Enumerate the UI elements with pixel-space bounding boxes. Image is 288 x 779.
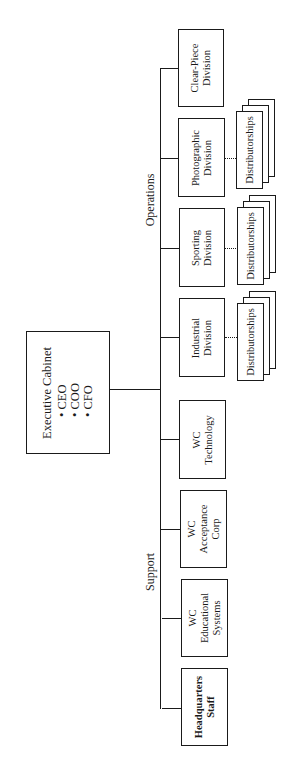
unit-label-line1: WC bbox=[191, 415, 203, 464]
executive-member-list: • CEO • COO • CFO bbox=[56, 347, 95, 439]
unit-label-line1: Headquarters bbox=[193, 676, 205, 738]
group-label-operations: Operations bbox=[143, 174, 158, 227]
unit-label: Clear-Piece Division bbox=[189, 44, 213, 93]
distributorships-label: Distributorships bbox=[245, 212, 257, 280]
distributorships-front-card[interactable]: Distributorships bbox=[237, 303, 264, 381]
executive-cabinet-box[interactable]: Executive Cabinet • CEO • COO • CFO bbox=[26, 331, 110, 454]
exec-connector-line bbox=[109, 389, 161, 390]
unit-label-line3: Corp bbox=[209, 505, 221, 554]
dotted-link-industrial-distributorships bbox=[225, 337, 237, 338]
distributorships-label: Distributorships bbox=[245, 308, 257, 376]
unit-label-line2: Acceptance bbox=[198, 505, 210, 554]
unit-label-line1: WC bbox=[187, 593, 199, 643]
branch-line-headquarters-staff bbox=[162, 708, 182, 709]
unit-box-clear-piece-division[interactable]: Clear-Piece Division bbox=[178, 29, 224, 107]
unit-label: Sporting Division bbox=[190, 229, 214, 265]
unit-label: Industrial Division bbox=[190, 317, 214, 357]
member-cfo: • CFO bbox=[83, 347, 96, 439]
unit-label-line1: Sporting bbox=[190, 229, 202, 265]
dotted-link-sporting-distributorships bbox=[225, 248, 236, 249]
executive-cabinet-content: Executive Cabinet • CEO • COO • CFO bbox=[40, 347, 95, 439]
unit-label: Headquarters Staff bbox=[193, 676, 217, 738]
unit-label-line2: Division bbox=[202, 229, 214, 265]
branch-line-photographic bbox=[160, 158, 179, 159]
unit-label-line3: Systems bbox=[210, 593, 222, 643]
unit-box-wc-educational-systems[interactable]: WC Educational Systems bbox=[181, 579, 228, 657]
unit-label-line1: Industrial bbox=[190, 317, 202, 357]
branch-line-wc-acceptance-corp bbox=[161, 529, 180, 530]
branch-line-wc-educational-systems bbox=[162, 618, 181, 619]
branch-line-industrial bbox=[160, 337, 179, 338]
branch-line-sporting bbox=[160, 248, 179, 249]
unit-label: Photographic Division bbox=[190, 130, 214, 186]
branch-line-clear-piece bbox=[160, 68, 179, 69]
unit-label-line2: Division bbox=[202, 317, 214, 357]
dotted-link-photographic-distributorships bbox=[225, 158, 236, 159]
unit-box-wc-acceptance-corp[interactable]: WC Acceptance Corp bbox=[180, 490, 227, 568]
unit-label-line2: Technology bbox=[203, 415, 215, 464]
unit-label-line1: Clear-Piece bbox=[189, 44, 201, 93]
distributorships-front-card[interactable]: Distributorships bbox=[237, 207, 264, 285]
unit-label-line1: WC bbox=[186, 505, 198, 554]
unit-label-line2: Division bbox=[202, 130, 214, 186]
unit-label-line2: Educational bbox=[199, 593, 211, 643]
unit-label: WC Technology bbox=[191, 415, 215, 464]
distributorships-front-card[interactable]: Distributorships bbox=[236, 111, 263, 189]
unit-label-line2: Staff bbox=[205, 676, 217, 738]
executive-cabinet-title: Executive Cabinet bbox=[40, 347, 54, 439]
unit-box-sporting-division[interactable]: Sporting Division bbox=[179, 208, 225, 287]
unit-box-wc-technology[interactable]: WC Technology bbox=[179, 400, 226, 479]
distributorships-label: Distributorships bbox=[244, 116, 256, 184]
branch-line-wc-technology bbox=[160, 439, 180, 440]
unit-label: WC Educational Systems bbox=[187, 593, 222, 643]
group-label-support: Support bbox=[143, 553, 158, 591]
unit-label-line2: Division bbox=[201, 44, 213, 93]
unit-label: WC Acceptance Corp bbox=[186, 505, 221, 554]
unit-box-headquarters-staff[interactable]: Headquarters Staff bbox=[181, 668, 228, 746]
unit-label-line1: Photographic bbox=[190, 130, 202, 186]
unit-box-industrial-division[interactable]: Industrial Division bbox=[179, 298, 225, 377]
unit-box-photographic-division[interactable]: Photographic Division bbox=[178, 118, 225, 197]
